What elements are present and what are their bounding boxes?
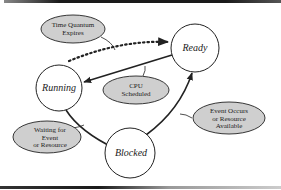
note-cpu-scheduled: CPU Scheduled (103, 76, 169, 104)
note-waiting-line3: or Resource (33, 141, 67, 149)
note-time-quantum-line1: Time Quantum (52, 21, 95, 29)
note-time-quantum-line2: Expires (62, 29, 84, 37)
state-ready: Ready (171, 24, 219, 72)
note-cpu-line1: CPU (129, 82, 143, 90)
bottom-border (0, 186, 281, 189)
note-time-quantum: Time Quantum Expires (41, 15, 105, 43)
note-event-occurs: Event Occurs or Resource Available (193, 102, 265, 134)
leader-event (180, 114, 192, 118)
state-blocked-label: Blocked (115, 147, 148, 158)
leader-cpu (143, 66, 145, 76)
note-cpu-line2: Scheduled (121, 90, 151, 98)
transition-timeout-arrow (69, 42, 168, 61)
state-running-label: Running (41, 82, 76, 93)
state-blocked: Blocked (105, 128, 155, 178)
top-border (4, 0, 281, 3)
note-waiting: Waiting for Event or Resource (13, 121, 81, 153)
state-running: Running (36, 65, 82, 111)
state-ready-label: Ready (182, 42, 209, 53)
note-event-line3: Available (216, 122, 243, 130)
state-diagram: Ready Running Blocked Time Quantum Expir… (0, 0, 281, 190)
